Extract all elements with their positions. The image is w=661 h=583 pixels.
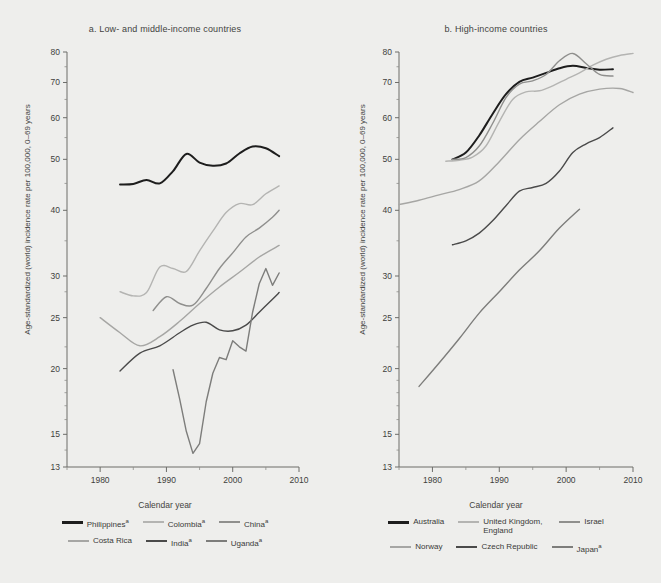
svg-text:1990: 1990: [157, 475, 176, 485]
svg-text:50: 50: [383, 154, 393, 164]
legend-footnote-marker: a: [259, 537, 262, 543]
panel-a-legend: PhilippinesaColombiaaChinaaCosta RicaInd…: [0, 517, 330, 554]
legend-swatch-icon: [552, 546, 573, 548]
legend-footnote-marker: a: [202, 518, 205, 524]
svg-text:15: 15: [51, 429, 61, 439]
legend-footnote-marker: a: [125, 518, 128, 524]
svg-text:60: 60: [51, 113, 61, 123]
legend-label: Israel: [584, 517, 604, 526]
panel-b-plot-area: 131520253040506070801980199020002010: [399, 52, 633, 467]
series-line-costa-rica: [100, 245, 279, 345]
figure-container: a. Low- and middle-income countries Age-…: [0, 0, 661, 583]
svg-text:15: 15: [383, 429, 393, 439]
svg-text:13: 13: [51, 462, 61, 472]
legend-swatch-icon: [456, 546, 477, 548]
svg-text:1980: 1980: [91, 475, 110, 485]
svg-text:80: 80: [383, 47, 393, 57]
legend-label: Indiaa: [171, 536, 192, 548]
svg-text:25: 25: [383, 313, 393, 323]
svg-text:20: 20: [51, 364, 61, 374]
svg-text:70: 70: [383, 77, 393, 87]
svg-text:25: 25: [51, 313, 61, 323]
svg-text:30: 30: [383, 271, 393, 281]
legend-item-uganda[interactable]: Ugandaa: [206, 536, 262, 548]
svg-text:2000: 2000: [557, 475, 576, 485]
panel-a-plot-area: 131520253040506070801980199020002010: [67, 52, 299, 467]
legend-row: AustraliaUnited Kingdom, EnglandIsrael: [331, 517, 661, 535]
svg-text:80: 80: [51, 47, 61, 57]
legend-row: Costa RicaIndiaaUgandaa: [0, 536, 330, 548]
panel-b-title: b. High-income countries: [331, 24, 661, 34]
legend-label: Ugandaa: [231, 536, 262, 548]
panel-b-svg: 131520253040506070801980199020002010: [399, 52, 633, 467]
legend-item-norway[interactable]: Norway: [390, 542, 442, 551]
legend-item-philippines[interactable]: Philippinesa: [62, 517, 129, 529]
panel-b-y-axis-label: Age-standardized (world) incidence rate …: [358, 100, 367, 340]
legend-row: NorwayCzech RepublicJapana: [331, 542, 661, 554]
legend-swatch-icon: [206, 540, 227, 542]
svg-text:70: 70: [51, 77, 61, 87]
svg-text:60: 60: [383, 113, 393, 123]
legend-label: Japana: [577, 542, 602, 554]
panel-b-x-axis-label: Calendar year: [331, 500, 661, 510]
legend-item-china[interactable]: Chinaa: [219, 517, 268, 529]
legend-label: United Kingdom, England: [483, 517, 545, 535]
legend-swatch-icon: [388, 521, 409, 524]
legend-footnote-marker: a: [598, 543, 601, 549]
panel-a-title: a. Low- and middle-income countries: [0, 24, 330, 34]
legend-swatch-icon: [559, 521, 580, 523]
legend-label: Norway: [415, 542, 442, 551]
panel-b-legend: AustraliaUnited Kingdom, EnglandIsraelNo…: [331, 517, 661, 561]
legend-swatch-icon: [390, 546, 411, 548]
legend-item-india[interactable]: Indiaa: [146, 536, 192, 548]
svg-text:20: 20: [383, 364, 393, 374]
svg-text:2000: 2000: [223, 475, 242, 485]
legend-swatch-icon: [62, 521, 83, 524]
series-line-colombia: [120, 186, 279, 296]
svg-text:40: 40: [383, 205, 393, 215]
panel-high-income: b. High-income countries Age-standardize…: [331, 0, 661, 583]
legend-swatch-icon: [146, 540, 167, 542]
legend-label: Chinaa: [244, 517, 268, 529]
svg-text:13: 13: [383, 462, 393, 472]
legend-item-czech-republic[interactable]: Czech Republic: [456, 542, 537, 551]
legend-swatch-icon: [68, 540, 89, 542]
legend-row: PhilippinesaColombiaaChinaa: [0, 517, 330, 529]
svg-text:1980: 1980: [423, 475, 442, 485]
svg-text:50: 50: [51, 154, 61, 164]
legend-label: Colombiaa: [168, 517, 205, 529]
svg-text:1990: 1990: [490, 475, 509, 485]
series-line-philippines: [120, 146, 279, 184]
legend-item-costa-rica[interactable]: Costa Rica: [68, 536, 132, 545]
legend-footnote-marker: a: [188, 537, 191, 543]
legend-swatch-icon: [219, 521, 240, 523]
legend-item-israel[interactable]: Israel: [559, 517, 604, 526]
svg-text:2010: 2010: [624, 475, 643, 485]
legend-label: Costa Rica: [93, 536, 132, 545]
legend-label: Australia: [413, 517, 444, 526]
panel-low-middle-income: a. Low- and middle-income countries Age-…: [0, 0, 330, 583]
legend-label: Czech Republic: [481, 542, 537, 551]
legend-footnote-marker: a: [265, 518, 268, 524]
legend-swatch-icon: [458, 521, 479, 523]
legend-label: Philippinesa: [87, 517, 129, 529]
series-line-uganda: [173, 269, 279, 454]
series-line-czech-republic: [452, 128, 612, 245]
legend-item-colombia[interactable]: Colombiaa: [143, 517, 205, 529]
svg-text:40: 40: [51, 205, 61, 215]
legend-item-united-kingdom-england[interactable]: United Kingdom, England: [458, 517, 545, 535]
panel-a-svg: 131520253040506070801980199020002010: [67, 52, 299, 467]
panel-a-x-axis-label: Calendar year: [0, 500, 330, 510]
svg-text:30: 30: [51, 271, 61, 281]
legend-swatch-icon: [143, 521, 164, 523]
series-line-australia: [452, 66, 612, 160]
series-line-norway: [399, 88, 633, 205]
series-line-japan: [419, 209, 579, 386]
legend-item-japan[interactable]: Japana: [552, 542, 602, 554]
svg-text:2010: 2010: [290, 475, 309, 485]
panel-a-y-axis-label: Age-standardized (world) incidence rate …: [23, 100, 32, 340]
legend-item-australia[interactable]: Australia: [388, 517, 444, 526]
